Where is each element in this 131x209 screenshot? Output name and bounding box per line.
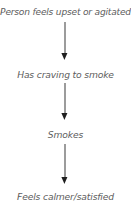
flowchart-node-craving: Has craving to smoke xyxy=(0,69,131,80)
arrow-shaft xyxy=(65,83,66,115)
arrow-shaft xyxy=(65,144,66,179)
flowchart-node-calmer: Feels calmer/satisfied xyxy=(0,191,131,202)
flowchart-node-upset: Person feels upset or agitated xyxy=(0,7,131,18)
arrow-head xyxy=(61,177,67,184)
smoking-cycle-flowchart: Person feels upset or agitated Has cravi… xyxy=(0,0,131,209)
flowchart-node-smokes: Smokes xyxy=(0,129,131,140)
arrow-head xyxy=(61,53,67,60)
arrow-shaft xyxy=(65,22,66,55)
arrow-head xyxy=(61,113,67,120)
